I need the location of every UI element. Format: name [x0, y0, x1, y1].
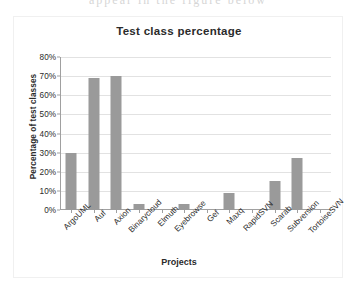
x-tick-mark: [229, 210, 230, 213]
y-tick-label: 10%: [40, 186, 56, 195]
bar-slot: [286, 57, 309, 210]
y-tick-label: 80%: [40, 53, 56, 62]
bar-slot: [60, 57, 83, 210]
x-tick-mark: [207, 210, 208, 213]
y-tick-label: 40%: [40, 129, 56, 138]
bar[interactable]: [111, 76, 122, 210]
bar-series: [60, 57, 331, 210]
y-axis-title: Percentage of test classes: [29, 57, 38, 197]
bar-slot: [105, 57, 128, 210]
bar-slot: [128, 57, 151, 210]
chart-title: Test class percentage: [14, 25, 344, 37]
y-tick-label: 30%: [40, 148, 56, 157]
bar-slot: [173, 57, 196, 210]
bar-slot: [263, 57, 286, 210]
bar-slot: [308, 57, 331, 210]
page-bleed-text: appear in the figure below: [0, 0, 356, 9]
x-axis-title: Projects: [14, 257, 344, 267]
y-tick-label: 20%: [40, 167, 56, 176]
bar-slot: [241, 57, 264, 210]
x-tick-mark: [94, 210, 95, 213]
x-tick-mark: [116, 210, 117, 213]
x-tick-mark: [71, 210, 72, 213]
bar-slot: [218, 57, 241, 210]
bar[interactable]: [292, 158, 303, 210]
x-tick-mark: [275, 210, 276, 213]
bar-slot: [150, 57, 173, 210]
bar-slot: [196, 57, 219, 210]
y-tick-label: 0%: [44, 206, 56, 215]
y-tick-label: 70%: [40, 72, 56, 81]
bar-slot: [83, 57, 106, 210]
chart-figure: Test class percentage Percentage of test…: [13, 16, 343, 278]
y-tick-label: 50%: [40, 110, 56, 119]
x-tick-mark: [139, 210, 140, 213]
x-tick-mark: [297, 210, 298, 213]
x-tick-mark: [320, 210, 321, 213]
bar[interactable]: [88, 78, 99, 210]
x-tick-mark: [252, 210, 253, 213]
plot-area: 0%10%20%30%40%50%60%70%80%: [60, 57, 331, 210]
y-tick-label: 60%: [40, 91, 56, 100]
bar[interactable]: [66, 153, 77, 210]
x-tick-mark: [162, 210, 163, 213]
x-tick-mark: [184, 210, 185, 213]
bar[interactable]: [224, 193, 235, 210]
